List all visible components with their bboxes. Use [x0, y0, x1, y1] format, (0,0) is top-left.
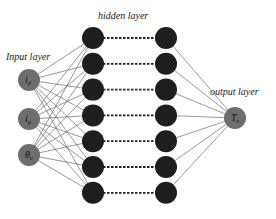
input-layer-label: Input layer	[5, 51, 50, 62]
hidden-node-col1-2	[82, 53, 104, 75]
hidden-node-col1-1	[82, 27, 104, 49]
hidden-node-col2-5	[155, 130, 177, 152]
hidden-node-col2-2	[155, 53, 177, 75]
hidden-node-col2-6	[155, 156, 177, 178]
hidden-node-col1-4	[82, 104, 104, 126]
hidden-node-col1-7	[82, 182, 104, 204]
hidden-node-col1-6	[82, 156, 104, 178]
hidden-node-col2-7	[155, 182, 177, 204]
hidden-node-col2-1	[155, 27, 177, 49]
hidden-node-col2-4	[155, 104, 177, 126]
hidden-dashed-links	[103, 38, 156, 193]
hidden-layer-label: hidden layer	[98, 10, 148, 21]
neural-network-diagram: idiqθeTe Input layer hidden layer output…	[0, 0, 276, 219]
output-layer-label: output layer	[210, 86, 259, 97]
hidden-node-col2-3	[155, 79, 177, 101]
hidden-node-col1-5	[82, 130, 104, 152]
hidden-node-col1-3	[82, 79, 104, 101]
